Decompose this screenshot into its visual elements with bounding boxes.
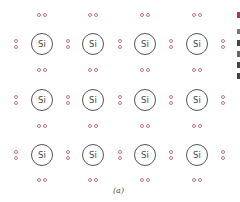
valence-electron-dot [146, 178, 150, 182]
silicon-atom: Si [186, 89, 208, 111]
valence-electron-dot [146, 13, 150, 17]
valence-electron-dot [118, 95, 122, 99]
valence-electron-dot [37, 178, 41, 182]
valence-electron-dot [118, 156, 122, 160]
valence-electron-dot [37, 124, 41, 128]
valence-electron-dot [43, 124, 47, 128]
valence-electron-dot [14, 150, 18, 154]
valence-electron-dot [169, 45, 173, 49]
valence-electron-dot [198, 124, 202, 128]
silicon-atom: Si [31, 144, 53, 166]
valence-electron-dot [169, 95, 173, 99]
valence-electron-dot [140, 13, 144, 17]
cropped-text-fragment [237, 12, 240, 18]
silicon-atom: Si [82, 144, 104, 166]
cropped-text-fragment [237, 62, 240, 68]
valence-electron-dot [66, 101, 70, 105]
valence-electron-dot [221, 150, 225, 154]
valence-electron-dot [198, 68, 202, 72]
valence-electron-dot [14, 156, 18, 160]
silicon-atom: Si [31, 89, 53, 111]
valence-electron-dot [192, 68, 196, 72]
valence-electron-dot [66, 150, 70, 154]
valence-electron-dot [118, 39, 122, 43]
valence-electron-dot [66, 39, 70, 43]
valence-electron-dot [88, 68, 92, 72]
valence-electron-dot [221, 39, 225, 43]
valence-electron-dot [221, 101, 225, 105]
valence-electron-dot [94, 124, 98, 128]
cropped-text-fragment [237, 51, 240, 57]
valence-electron-dot [192, 124, 196, 128]
valence-electron-dot [140, 68, 144, 72]
valence-electron-dot [221, 95, 225, 99]
valence-electron-dot [66, 45, 70, 49]
valence-electron-dot [140, 178, 144, 182]
valence-electron-dot [198, 178, 202, 182]
valence-electron-dot [14, 101, 18, 105]
cropped-text-fragment [237, 73, 240, 79]
valence-electron-dot [169, 101, 173, 105]
silicon-atom: Si [31, 33, 53, 55]
valence-electron-dot [118, 150, 122, 154]
valence-electron-dot [198, 13, 202, 17]
valence-electron-dot [140, 124, 144, 128]
valence-electron-dot [192, 178, 196, 182]
valence-electron-dot [14, 45, 18, 49]
valence-electron-dot [94, 13, 98, 17]
valence-electron-dot [192, 13, 196, 17]
silicon-atom: Si [134, 33, 156, 55]
valence-electron-dot [66, 156, 70, 160]
cropped-text-fragment [237, 29, 240, 34]
valence-electron-dot [169, 156, 173, 160]
valence-electron-dot [221, 45, 225, 49]
valence-electron-dot [146, 68, 150, 72]
valence-electron-dot [221, 156, 225, 160]
silicon-atom: Si [82, 89, 104, 111]
valence-electron-dot [43, 68, 47, 72]
valence-electron-dot [37, 13, 41, 17]
silicon-atom: Si [134, 144, 156, 166]
valence-electron-dot [88, 178, 92, 182]
valence-electron-dot [43, 178, 47, 182]
valence-electron-dot [146, 124, 150, 128]
valence-electron-dot [14, 95, 18, 99]
silicon-atom: Si [82, 33, 104, 55]
valence-electron-dot [88, 13, 92, 17]
valence-electron-dot [37, 68, 41, 72]
cropped-text-fragment [237, 40, 240, 46]
figure-caption: (a) [113, 186, 124, 195]
valence-electron-dot [88, 124, 92, 128]
valence-electron-dot [94, 68, 98, 72]
valence-electron-dot [94, 178, 98, 182]
valence-electron-dot [14, 39, 18, 43]
silicon-atom: Si [186, 144, 208, 166]
valence-electron-dot [118, 45, 122, 49]
valence-electron-dot [169, 39, 173, 43]
silicon-atom: Si [134, 89, 156, 111]
valence-electron-dot [43, 13, 47, 17]
valence-electron-dot [66, 95, 70, 99]
silicon-atom: Si [186, 33, 208, 55]
valence-electron-dot [118, 101, 122, 105]
valence-electron-dot [169, 150, 173, 154]
